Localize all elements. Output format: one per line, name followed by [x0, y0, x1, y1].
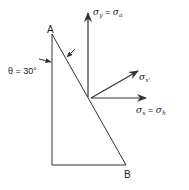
sigma-x-equals: =	[146, 105, 156, 115]
point-b-label: B	[124, 169, 131, 180]
angle-arrow-right	[67, 49, 75, 57]
point-a-label: A	[47, 24, 54, 35]
sigma-x-label: σx = σh	[136, 105, 166, 116]
sigma-x-prime-label: σx'	[139, 72, 151, 83]
sigma-x-prime-subscript: x'	[145, 76, 150, 83]
sigma-y-label: σy = σa	[93, 7, 123, 19]
triangle-hypotenuse-ab	[52, 34, 126, 165]
angle-arrow-left	[39, 59, 51, 62]
sigma-y-equals: =	[103, 7, 113, 17]
sigma-h-subscript: h	[162, 109, 166, 116]
angle-label: θ = 30°	[8, 66, 37, 76]
sigma-x-prime-arrow	[91, 71, 138, 98]
sigma-a-subscript: a	[119, 11, 123, 18]
stress-diagram: A B θ = 30° σy = σa σx' σx = σh	[0, 0, 189, 190]
